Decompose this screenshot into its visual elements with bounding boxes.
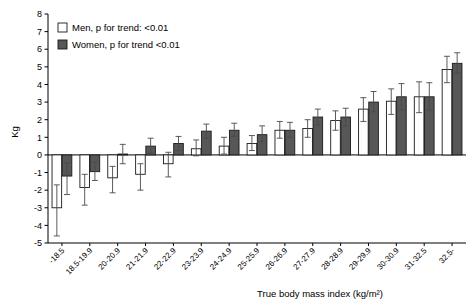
x-tick-label: 27-27.9 xyxy=(292,246,318,272)
bar-group xyxy=(303,109,323,155)
bar-group xyxy=(247,126,267,155)
x-tick-label: 28-28.9 xyxy=(319,246,345,272)
x-tick-label: 23-23.9 xyxy=(180,246,206,272)
x-tick-label: -18.5 xyxy=(47,246,67,266)
y-tick-label: -4 xyxy=(34,221,42,231)
y-tick-label: -2 xyxy=(34,185,42,195)
y-tick-label: 7 xyxy=(37,27,42,37)
y-tick-label: -5 xyxy=(34,238,42,248)
bar-group xyxy=(442,53,462,155)
legend-label-men: Men, p for trend: <0.01 xyxy=(72,22,168,33)
y-tick-label: 1 xyxy=(37,133,42,143)
y-tick-label: 3 xyxy=(37,97,42,107)
x-tick-label: 24-24.9 xyxy=(208,246,234,272)
bar-group xyxy=(136,138,156,190)
legend-label-women: Women, p for trend <0.01 xyxy=(72,39,180,50)
bar-group xyxy=(164,136,184,177)
bar-group xyxy=(219,123,239,155)
y-axis-title: Kg xyxy=(9,126,20,138)
x-tick-label: 26-26.9 xyxy=(264,246,290,272)
bar-group xyxy=(275,121,295,154)
y-tick-label: 2 xyxy=(37,115,42,125)
x-tick-label: 20-20.9 xyxy=(97,246,123,272)
bar-group xyxy=(331,108,351,155)
bar-women xyxy=(452,63,462,155)
y-tick-label: 6 xyxy=(37,44,42,54)
x-tick-label: 21-21.9 xyxy=(124,246,150,272)
bar-group xyxy=(359,92,379,155)
x-axis-title: True body mass index (kg/m²) xyxy=(257,288,383,299)
bar-group xyxy=(386,84,406,155)
y-tick-label: 0 xyxy=(37,150,42,160)
y-tick-label: 4 xyxy=(37,80,42,90)
bar-group xyxy=(52,155,72,236)
chart-figure: -5-4-3-2-1012345678Kg-18.518.5-19.920-20… xyxy=(0,0,476,304)
y-tick-label: 8 xyxy=(37,9,42,19)
bar-chart: -5-4-3-2-1012345678Kg-18.518.5-19.920-20… xyxy=(0,0,476,304)
men-swatch xyxy=(58,23,67,32)
bar-group xyxy=(80,155,100,205)
x-tick-label: 18.5-19.9 xyxy=(64,246,95,277)
x-tick-label: 31-32.5 xyxy=(403,246,429,272)
y-tick-label: -1 xyxy=(34,168,42,178)
x-tick-label: 30-30.9 xyxy=(375,246,401,272)
women-swatch xyxy=(58,40,67,49)
x-tick-label: 22-22.9 xyxy=(152,246,178,272)
bar-group xyxy=(191,124,211,156)
y-tick-label: 5 xyxy=(37,62,42,72)
x-tick-label: 29-29.9 xyxy=(347,246,373,272)
x-tick-label: 25-25.9 xyxy=(236,246,262,272)
bar-group xyxy=(414,82,434,155)
x-tick-label: 32.5- xyxy=(437,246,456,265)
y-tick-label: -3 xyxy=(34,203,42,213)
bar-group xyxy=(108,144,128,192)
